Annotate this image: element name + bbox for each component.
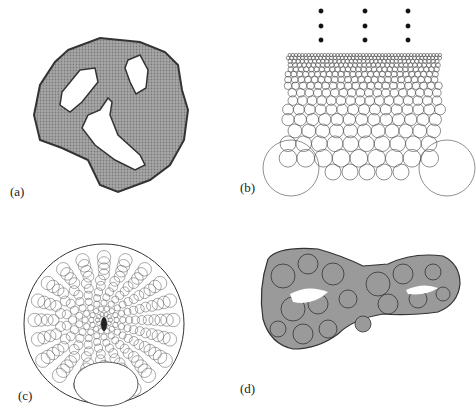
- panel-c-label: (c): [18, 388, 32, 404]
- panel-a: (a): [0, 0, 238, 204]
- panel-d: (d): [238, 204, 476, 409]
- panel-d-label: (d): [240, 381, 255, 397]
- panel-b: (b): [238, 0, 476, 204]
- panel-c-graphic: [0, 204, 238, 409]
- panel-c: (c): [0, 204, 238, 409]
- panel-a-label: (a): [10, 184, 24, 200]
- panel-b-graphic: [238, 0, 476, 204]
- panel-a-graphic: [0, 0, 238, 204]
- panel-d-graphic: [238, 204, 476, 409]
- panel-b-label: (b): [240, 180, 255, 196]
